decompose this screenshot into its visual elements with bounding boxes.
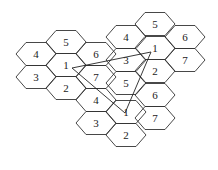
cell-label: 4 (93, 94, 99, 106)
cell-label: 1 (123, 106, 129, 118)
cell-label: 3 (33, 71, 39, 83)
hex-cells (16, 13, 205, 147)
cell-label: 3 (93, 117, 99, 129)
cell-label: 6 (182, 31, 188, 43)
cell-label: 7 (93, 71, 99, 83)
cell-label: 5 (123, 77, 129, 89)
cell-label: 7 (182, 54, 188, 66)
cell-label: 1 (152, 42, 158, 54)
cell-label: 2 (152, 65, 158, 77)
cell-label: 3 (123, 54, 129, 66)
cell-label: 4 (123, 31, 129, 43)
cell-label: 5 (152, 18, 158, 30)
cell-label: 5 (63, 36, 69, 48)
hex-cell-diagram: 546546137137225461372 (0, 0, 218, 170)
cell-label: 2 (123, 129, 129, 141)
cell-label: 6 (152, 89, 158, 101)
cell-label: 6 (93, 48, 99, 60)
cell-label: 1 (63, 59, 69, 71)
cell-label: 7 (152, 112, 158, 124)
cell-label: 4 (33, 48, 39, 60)
cell-label: 2 (63, 82, 69, 94)
